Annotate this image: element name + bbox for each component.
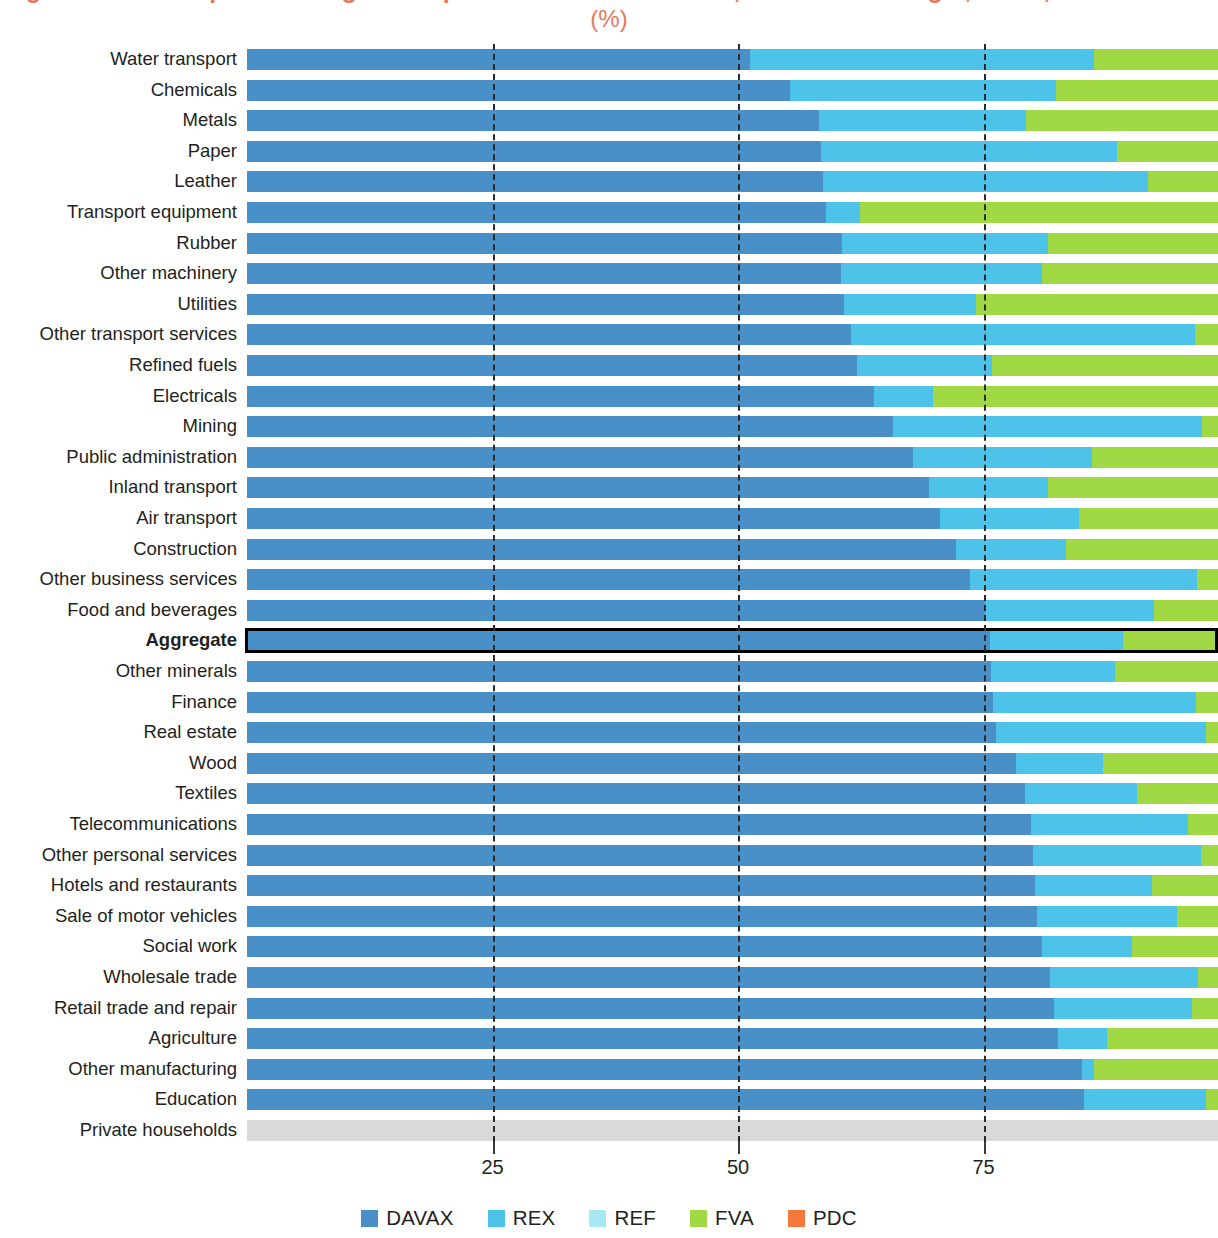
stacked-bar [247,508,1218,529]
category-label: Rubber [0,228,237,258]
legend-item-davax[interactable]: DAVAX [361,1206,453,1230]
bar-segment-fva [1094,1059,1216,1080]
stacked-bar [247,906,1218,927]
x-axis-tick-label: 75 [954,1156,1014,1179]
category-label: Other minerals [0,656,237,686]
stacked-bar [247,967,1218,988]
bar-segment-fva [1042,263,1216,284]
stacked-bar [247,845,1218,866]
legend-item-pdc[interactable]: PDC [788,1206,857,1230]
stacked-bar [247,477,1218,498]
bar-segment-davax [247,416,893,437]
bar-segment-fva [1079,508,1216,529]
stacked-bar [247,661,1218,682]
bar-segment-fva [1196,692,1217,713]
bar-segment-rex [1033,845,1202,866]
bar-segment-fva [1103,753,1216,774]
bar-segment-davax [247,906,1037,927]
category-label: Private households [0,1115,237,1145]
bar-segment-rex [913,447,1092,468]
bar-segment-davax [247,477,929,498]
chart-row: Other minerals [0,656,1218,686]
bar-segment-davax [247,263,841,284]
bar-segment-rex [1037,906,1177,927]
category-label: Metals [0,105,237,135]
bar-segment-rex [1025,783,1137,804]
bar-segment-fva [1092,447,1217,468]
legend-label: FVA [715,1206,754,1230]
stacked-bar [247,875,1218,896]
x-axis-tick-mark [493,1142,495,1154]
category-label: Hotels and restaurants [0,870,237,900]
chart-row: Mining [0,411,1218,441]
bar-segment-davax [247,936,1042,957]
bar-segment-fva [1195,324,1217,345]
bar-segment-rex [1050,967,1197,988]
bar-segment-rex [956,539,1066,560]
bar-segment-fva [1206,722,1216,743]
bar-segment-davax [247,1089,1084,1110]
legend-swatch-rex [488,1210,505,1227]
bar-segment-davax [247,233,842,254]
bar-segment-rex [970,569,1197,590]
bar-segment-fva [1152,875,1216,896]
bar-segment-davax [247,692,993,713]
category-label: Leather [0,166,237,196]
bar-segment-rex [826,202,859,223]
bar-segment-fva [1132,936,1216,957]
bar-segment-rex [1016,753,1103,774]
bar-segment-davax [247,998,1054,1019]
category-label: Other manufacturing [0,1054,237,1084]
bar-segment-davax [247,600,985,621]
legend-label: REX [513,1206,556,1230]
legend-item-fva[interactable]: FVA [690,1206,754,1230]
stacked-bar [247,569,1218,590]
chart-plot-area: Water transportChemicalsMetalsPaperLeath… [0,44,1218,1142]
legend-swatch-davax [361,1210,378,1227]
legend-item-ref[interactable]: REF [589,1206,656,1230]
bar-segment-rex [874,386,934,407]
stacked-bar [245,628,1218,653]
chart-row: Inland transport [0,472,1218,502]
chart-row: Water transport [0,44,1218,74]
bar-segment-rex [1042,936,1131,957]
legend-item-rex[interactable]: REX [488,1206,556,1230]
category-label: Water transport [0,44,237,74]
bar-segment-fva [1048,233,1216,254]
stacked-bar [247,49,1218,70]
bar-segment-davax [247,1028,1058,1049]
bar-segment-fva [1206,1089,1216,1110]
bar-segment-nodata [247,1120,1218,1141]
stacked-bar [247,447,1218,468]
chart-row: Transport equipment [0,197,1218,227]
bar-segment-rex [1054,998,1191,1019]
chart-row: Social work [0,931,1218,961]
bar-segment-davax [247,508,940,529]
bar-segment-rex [790,80,1056,101]
bar-segment-rex [1031,814,1188,835]
bar-segment-fva [1066,539,1216,560]
category-label: Aggregate [0,625,237,655]
bar-segment-rex [857,355,993,376]
category-label: Sale of motor vehicles [0,901,237,931]
bar-segment-fva [933,386,1216,407]
bar-segment-fva [1107,1028,1216,1049]
category-label: Electricals [0,381,237,411]
category-label: Wood [0,748,237,778]
category-label: Finance [0,687,237,717]
category-label: Real estate [0,717,237,747]
category-label: Telecommunications [0,809,237,839]
chart-row: Other manufacturing [0,1054,1218,1084]
stacked-bar [247,233,1218,254]
bar-segment-davax [247,875,1035,896]
chart-row: Construction [0,534,1218,564]
bar-segment-davax [247,539,956,560]
bar-segment-davax [247,49,750,70]
bar-segment-fva [1198,967,1217,988]
category-label: Education [0,1084,237,1114]
chart-row: Rubber [0,228,1218,258]
chart-row: Other personal services [0,840,1218,870]
x-axis: 255075 [0,1142,1218,1192]
category-label: Transport equipment [0,197,237,227]
bar-segment-fva [1154,600,1216,621]
